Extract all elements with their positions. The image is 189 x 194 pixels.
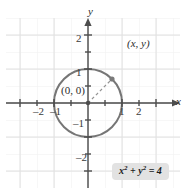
equation-equals: =	[146, 165, 157, 176]
y-tick-label-neg1: –1	[73, 118, 84, 129]
y-tick-label-neg2: –2	[76, 152, 87, 163]
x-tick-label-neg1: –1	[50, 106, 61, 117]
equation-plus: +	[128, 165, 139, 176]
x-tick-label-neg2: –2	[33, 106, 44, 117]
graph-figure: y x (x, y) (0, 0) –2 –1 1 2 2 1 –1 –2 x2…	[0, 0, 189, 194]
axis-label-x: x	[176, 96, 181, 107]
point-marker	[109, 76, 114, 81]
x-tick-label-2: 2	[136, 106, 142, 117]
axis-label-y: y	[88, 6, 93, 17]
equation-rhs: 4	[157, 165, 162, 176]
y-tick-label-2: 2	[76, 33, 82, 44]
x-tick-label-1: 1	[119, 106, 125, 117]
y-tick-label-1: 1	[76, 67, 82, 78]
origin-label: (0, 0)	[61, 85, 85, 96]
equation-badge: x2 + y2 = 4	[112, 163, 169, 180]
point-label: (x, y)	[127, 38, 150, 49]
origin-marker	[86, 101, 90, 105]
